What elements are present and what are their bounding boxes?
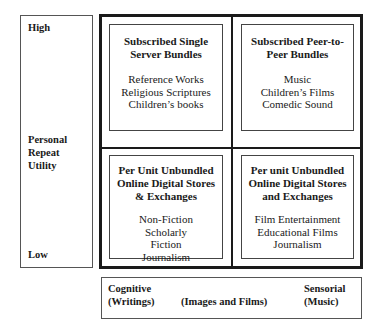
list-item: Non-Fiction — [110, 213, 222, 226]
x-axis-box: Cognitive (Writings) (Images and Films) … — [101, 277, 362, 319]
list-item: Scholarly — [110, 226, 222, 239]
title-line: Peer Bundles — [245, 48, 350, 61]
vertical-divider — [231, 14, 233, 269]
title-line: Online Digital Stores — [245, 177, 350, 190]
list-item: Journalism — [110, 251, 222, 264]
quadrant-items: Film Entertainment Educational Films Jou… — [242, 213, 353, 251]
list-item: Children’s Films — [242, 86, 353, 99]
x-axis-middle-label: (Images and Films) — [181, 295, 267, 308]
quadrant-title: Subscribed Peer-to- Peer Bundles — [242, 35, 353, 61]
quadrant-bottom-right: Per unit Unbundled Online Digital Stores… — [241, 155, 354, 259]
label-line: Sensorial — [304, 282, 345, 295]
list-item: Film Entertainment — [242, 213, 353, 226]
y-axis-low-label: Low — [28, 248, 48, 261]
y-axis-high-label: High — [28, 21, 50, 34]
label-line: (Writings) — [108, 295, 154, 308]
quadrant-top-right: Subscribed Peer-to- Peer Bundles Music C… — [241, 24, 354, 131]
y-axis-box: High Personal Repeat Utility Low — [20, 15, 93, 268]
quadrant-title: Per Unit Unbundled Online Digital Stores… — [110, 164, 222, 203]
y-axis-title-line: Personal — [28, 133, 67, 146]
y-axis-title-line: Utility — [28, 159, 67, 172]
list-item: Music — [242, 73, 353, 86]
list-item: Journalism — [242, 238, 353, 251]
title-line: Online Digital Stores — [113, 177, 219, 190]
title-line: Per Unit Unbundled — [113, 164, 219, 177]
title-line: and Exchanges — [245, 190, 350, 203]
list-item: Religious Scriptures — [110, 86, 222, 99]
list-item: Fiction — [110, 238, 222, 251]
list-item: Reference Works — [110, 73, 222, 86]
y-axis-title: Personal Repeat Utility — [28, 133, 67, 172]
y-axis-title-line: Repeat — [28, 146, 67, 159]
list-item: Children’s books — [110, 98, 222, 111]
quadrant-items: Reference Works Religious Scriptures Chi… — [110, 73, 222, 111]
quadrant-bottom-left: Per Unit Unbundled Online Digital Stores… — [109, 155, 223, 259]
x-axis-left-label: Cognitive (Writings) — [108, 282, 154, 308]
quadrant-items: Music Children’s Films Comedic Sound — [242, 73, 353, 111]
label-line: (Music) — [304, 295, 345, 308]
title-line: & Exchanges — [113, 190, 219, 203]
horizontal-divider — [99, 147, 363, 149]
title-line: Per unit Unbundled — [245, 164, 350, 177]
list-item: Comedic Sound — [242, 98, 353, 111]
title-line: Server Bundles — [113, 48, 219, 61]
title-line: Subscribed Single — [113, 35, 219, 48]
quadrant-top-left: Subscribed Single Server Bundles Referen… — [109, 24, 223, 131]
list-item: Educational Films — [242, 226, 353, 239]
quadrant-title: Per unit Unbundled Online Digital Stores… — [242, 164, 353, 203]
x-axis-right-label: Sensorial (Music) — [304, 282, 345, 308]
label-line: Cognitive — [108, 282, 154, 295]
title-line: Subscribed Peer-to- — [245, 35, 350, 48]
quadrant-items: Non-Fiction Scholarly Fiction Journalism — [110, 213, 222, 263]
quadrant-title: Subscribed Single Server Bundles — [110, 35, 222, 61]
